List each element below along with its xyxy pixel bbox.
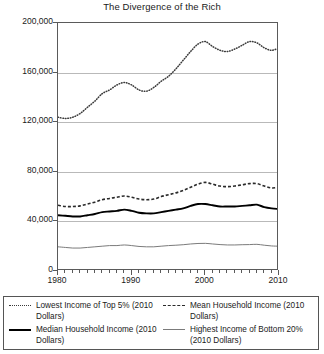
x-axis-tick-label: 1990 (111, 275, 151, 285)
y-axis-tick-label: 0 (2, 265, 53, 274)
series-line-1 (58, 182, 277, 206)
y-axis-tick-label: 40,000 (2, 215, 53, 224)
x-axis-tick-mark-minor (175, 270, 176, 273)
chart-title: The Divergence of the Rich (0, 1, 324, 13)
legend-swatch-dashed-icon (162, 300, 186, 311)
series-line-2 (58, 204, 277, 217)
x-axis-tick-mark-minor (64, 270, 65, 273)
legend-swatch-dotted-icon (8, 300, 32, 311)
x-axis-tick-mark-minor (101, 270, 102, 273)
plot-area (57, 22, 278, 270)
x-axis-tick-mark-minor (212, 270, 213, 273)
x-axis-tick-mark-minor (79, 270, 80, 273)
x-axis-tick-mark-minor (271, 270, 272, 273)
x-axis-tick-mark-minor (72, 270, 73, 273)
legend-swatch-solid-thin-icon (162, 324, 186, 335)
x-axis-tick-mark-minor (109, 270, 110, 273)
x-axis-tick-mark-minor (94, 270, 95, 273)
legend-swatch-solid-thick-icon (8, 324, 32, 335)
x-axis-tick-mark-minor (87, 270, 88, 273)
chart-legend: Lowest Income of Top 5% (2010 Dollars)Me… (3, 296, 319, 350)
y-axis-tick-label: 80,000 (2, 166, 53, 175)
legend-item[interactable]: Lowest Income of Top 5% (2010 Dollars) (8, 300, 162, 324)
x-axis-tick-mark-minor (197, 270, 198, 273)
x-axis-tick-mark-minor (182, 270, 183, 273)
legend-item-label: Mean Household Income (2010 Dollars) (190, 300, 316, 322)
x-axis-tick-mark-minor (241, 270, 242, 273)
series-line-3 (58, 243, 277, 248)
x-axis-tick-mark-minor (116, 270, 117, 273)
x-axis-tick-mark-minor (256, 270, 257, 273)
x-axis-tick-label: 2000 (184, 275, 224, 285)
legend-item[interactable]: Mean Household Income (2010 Dollars) (162, 300, 316, 324)
x-axis-tick-mark-minor (153, 270, 154, 273)
x-axis-tick-mark-minor (234, 270, 235, 273)
x-axis-tick-mark-minor (249, 270, 250, 273)
series-line-0 (58, 41, 277, 118)
x-axis-tick-mark-minor (138, 270, 139, 273)
x-axis-tick-mark-minor (168, 270, 169, 273)
chart-page: The Divergence of the Rich 040,00080,000… (0, 0, 324, 354)
legend-item[interactable]: Median Household Income (2010 Dollars) (8, 324, 162, 348)
legend-item-label: Highest Income of Bottom 20% (2010 Dolla… (190, 324, 316, 346)
x-axis-tick-label: 1980 (37, 275, 77, 285)
legend-item[interactable]: Highest Income of Bottom 20% (2010 Dolla… (162, 324, 316, 348)
y-axis-tick-label: 160,000 (2, 67, 53, 76)
legend-item-label: Median Household Income (2010 Dollars) (36, 324, 162, 346)
legend-item-label: Lowest Income of Top 5% (2010 Dollars) (36, 300, 162, 322)
y-axis-tick-label: 120,000 (2, 116, 53, 125)
x-axis-tick-mark-minor (226, 270, 227, 273)
series-lines (58, 23, 277, 269)
x-axis-tick-mark-minor (263, 270, 264, 273)
x-axis-tick-mark-minor (160, 270, 161, 273)
x-axis-tick-mark-minor (190, 270, 191, 273)
x-axis-tick-mark-minor (123, 270, 124, 273)
x-axis-tick-label: 2010 (258, 275, 298, 285)
x-axis-tick-mark-minor (219, 270, 220, 273)
y-axis-tick-label: 200,000 (2, 17, 53, 26)
x-axis-tick-mark-minor (145, 270, 146, 273)
